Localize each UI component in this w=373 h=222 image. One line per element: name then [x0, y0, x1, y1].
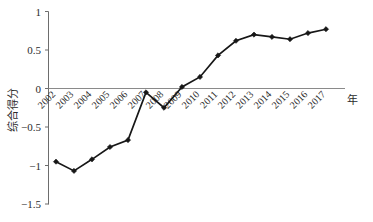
data-point — [323, 27, 328, 32]
y-tick-label-neg1_5: −1.5 — [21, 198, 41, 210]
x-tick-labels: 2002 2003 2004 2005 2006 2007 2008 2009 … — [35, 89, 327, 111]
x-tick-label-2015: 2015 — [269, 89, 291, 111]
chart-canvas: 1 0.5 0 −0.5 −1 −1.5 综合得分 年 2002 2003 20… — [0, 0, 373, 222]
x-axis-title: 年 — [347, 93, 358, 107]
line-chart: 1 0.5 0 −0.5 −1 −1.5 综合得分 年 2002 2003 20… — [0, 0, 373, 222]
x-tick-label-2016: 2016 — [287, 89, 309, 111]
y-axis-title: 综合得分 — [6, 88, 20, 132]
x-tick-label-2006: 2006 — [107, 89, 129, 111]
y-tick-label-1: 1 — [36, 6, 42, 18]
x-tick-label-2003: 2003 — [53, 89, 75, 111]
y-tick-label-neg1: −1 — [29, 160, 41, 172]
data-point — [305, 30, 310, 35]
x-tick-label-2014: 2014 — [251, 89, 273, 111]
x-tick-label-2010: 2010 — [179, 89, 201, 111]
x-tick-label-2013: 2013 — [233, 89, 255, 111]
x-tick-label-2011: 2011 — [198, 89, 220, 111]
x-tick-label-2005: 2005 — [89, 89, 111, 111]
x-tick-label-2017: 2017 — [305, 89, 327, 111]
y-tick-label-0: 0 — [36, 83, 42, 95]
y-tick-label-0_5: 0.5 — [27, 44, 41, 56]
data-point — [251, 32, 256, 37]
data-point — [269, 34, 274, 39]
data-point — [287, 37, 292, 42]
x-tick-label-2004: 2004 — [71, 89, 93, 111]
data-point — [125, 137, 130, 142]
y-tick-label-neg0_5: −0.5 — [21, 121, 41, 133]
x-tick-label-2012: 2012 — [215, 89, 237, 111]
